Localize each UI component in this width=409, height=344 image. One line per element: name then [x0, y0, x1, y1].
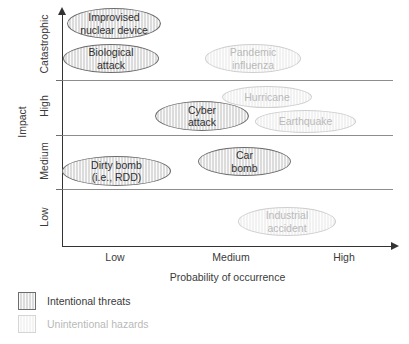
risk-bubble: Dirty bomb (i.e., RDD) [62, 156, 171, 186]
risk-matrix-chart: Catastrophic High Medium Low Impact Low … [0, 0, 409, 344]
y-axis-tick [56, 80, 63, 81]
risk-bubble-label: Cyber attack [182, 104, 222, 129]
x-axis-label-high: High [299, 251, 389, 263]
y-axis-arrow-icon [58, 7, 66, 15]
legend-swatch-intentional-icon [18, 292, 36, 310]
risk-bubble-label: Dirty bomb (i.e., RDD) [85, 159, 148, 184]
risk-bubble: Cyber attack [155, 101, 249, 131]
band-divider-catastrophic-high [63, 80, 393, 81]
risk-bubble-label: Earthquake [273, 115, 339, 127]
risk-bubble: Pandemic influenza [205, 44, 301, 73]
risk-bubble: Car bomb [198, 147, 291, 176]
band-divider-medium-low [63, 189, 393, 190]
x-axis-arrow-icon [391, 242, 399, 250]
risk-bubble-label: Pandemic influenza [224, 46, 283, 71]
legend-label-unintentional: Unintentional hazards [47, 318, 149, 330]
risk-bubble-label: Improvised nuclear device [74, 11, 154, 36]
risk-bubble-label: Industrial accident [260, 209, 315, 234]
x-axis-line [62, 246, 393, 247]
risk-bubble: Earthquake [255, 110, 356, 133]
legend-label-intentional: Intentional threats [47, 295, 130, 307]
legend-swatch-unintentional-icon [18, 315, 36, 333]
risk-bubble-label: Car bomb [225, 149, 263, 174]
y-axis-title: Impact [16, 82, 28, 162]
y-axis-tick [56, 135, 63, 136]
x-axis-label-low: Low [70, 251, 160, 263]
legend-item-intentional: Intentional threats [18, 289, 149, 312]
risk-bubble: Biological attack [63, 44, 159, 73]
risk-bubble: Industrial accident [238, 207, 336, 236]
y-axis-line [62, 14, 63, 246]
y-axis-label-low: Low [38, 177, 50, 257]
x-axis-label-medium: Medium [186, 251, 276, 263]
legend-item-unintentional: Unintentional hazards [18, 312, 149, 335]
y-axis-tick [56, 189, 63, 190]
x-axis-title: Probability of occurrence [62, 271, 393, 283]
risk-bubble: Improvised nuclear device [67, 8, 161, 39]
legend: Intentional threats Unintentional hazard… [18, 289, 149, 335]
risk-bubble-label: Hurricane [238, 91, 296, 103]
band-divider-high-medium [63, 135, 393, 136]
risk-bubble-label: Biological attack [83, 46, 140, 71]
